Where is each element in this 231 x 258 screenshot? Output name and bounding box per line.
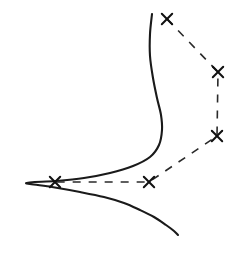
figure-background — [0, 0, 231, 258]
figure-svg — [0, 0, 231, 258]
figure-canvas — [0, 0, 231, 258]
